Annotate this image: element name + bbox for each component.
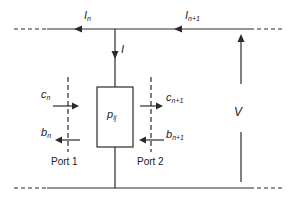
label-I: I [121, 44, 124, 55]
label-cn1: cn+1 [166, 92, 183, 104]
label-pij: pij [107, 109, 116, 121]
arrowhead-I [112, 51, 119, 59]
arrowhead-In1 [174, 26, 182, 33]
arrowhead-bn1 [139, 137, 146, 144]
circuit-diagram [0, 0, 298, 203]
arrowhead-cn [72, 103, 79, 110]
label-cn: cn [41, 89, 50, 101]
label-port2: Port 2 [137, 157, 164, 167]
label-In: In [84, 10, 91, 22]
arrowhead-In [74, 26, 82, 33]
label-port1: Port 1 [51, 157, 78, 167]
label-bn1: bn+1 [166, 129, 184, 141]
arrowhead-bn [55, 137, 62, 144]
arrowhead-V [238, 34, 245, 42]
label-bn: bn [41, 127, 51, 139]
label-V: V [234, 106, 242, 118]
label-In1: In+1 [185, 10, 200, 22]
arrowhead-cn1 [156, 103, 163, 110]
